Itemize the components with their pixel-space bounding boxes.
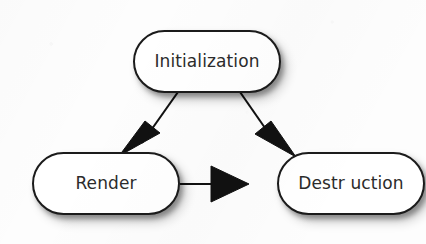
node-render-label: Render [75,175,136,192]
node-initialization-label: Initialization [154,53,259,70]
edge-render-to-destruction [180,166,249,202]
node-initialization[interactable]: Initialization [133,30,281,93]
diagram-canvas: Initialization Render Destr uction [0,0,426,244]
node-destruction[interactable]: Destr uction [277,152,425,215]
arrowhead-to-destruction-horizontal [211,166,249,202]
edge-initialization-to-render [119,92,178,156]
node-render[interactable]: Render [32,152,180,215]
node-destruction-label: Destr uction [298,175,403,192]
arrowhead-to-destruction-diagonal [255,121,296,157]
edge-initialization-to-destruction [240,92,296,157]
